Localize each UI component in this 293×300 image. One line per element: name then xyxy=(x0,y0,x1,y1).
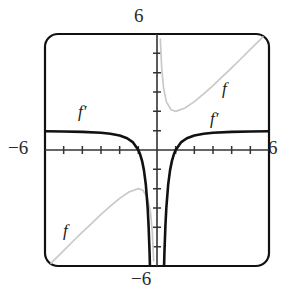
axes-group xyxy=(45,34,269,266)
graph-figure: 6 −6 6 −6 f f f′ f′ xyxy=(0,0,293,300)
curve-branch-left xyxy=(45,131,150,268)
curve-branch-left xyxy=(45,189,154,270)
curve-branch-right xyxy=(164,131,269,268)
plot-canvas xyxy=(0,0,293,300)
curve-branch-right xyxy=(160,31,269,112)
